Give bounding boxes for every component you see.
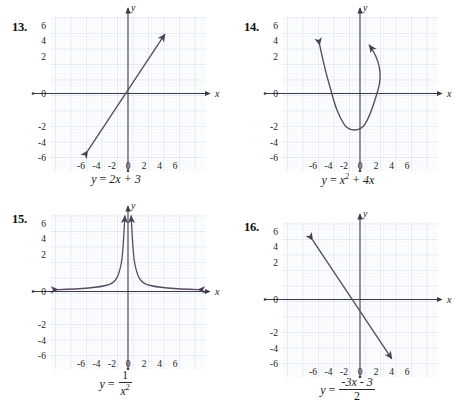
fraction-denominator: 2 — [339, 389, 374, 404]
y-tick-label: 4 — [273, 242, 278, 252]
y-tick-label: 2 — [273, 258, 278, 268]
y-tick-label: 2 — [41, 250, 46, 260]
x-tick-label: -2 — [340, 161, 348, 171]
fraction-neg3x-minus3-over-2: -3x - 32 — [339, 376, 374, 404]
equation-rhs: 2x + 3 — [109, 172, 140, 186]
denominator-exponent: 2 — [126, 383, 130, 392]
problem-16: 16. — [232, 206, 464, 413]
equation-operator: = — [327, 173, 340, 187]
x-tick-label: 6 — [173, 359, 178, 369]
y-tick-label: 4 — [273, 36, 278, 46]
x-tick-label: -6 — [77, 161, 85, 171]
x-tick-label: -6 — [77, 359, 85, 369]
y-tick-label: 6 — [41, 21, 46, 31]
x-tick-label: 6 — [405, 161, 410, 171]
y-tick-label: -6 — [38, 351, 46, 361]
equation-rhs-tail: + 4x — [349, 173, 374, 187]
y-tick-label: -6 — [270, 153, 278, 163]
x-axis-left-dot — [32, 92, 35, 95]
y-tick-label: -6 — [38, 153, 46, 163]
x-tick-label: 2 — [142, 359, 147, 369]
x-tick-label: 0 — [358, 161, 363, 171]
problem-15: 15. — [0, 206, 232, 413]
y-tick-label: -2 — [270, 328, 278, 338]
y-tick-label: -2 — [38, 122, 46, 132]
x-tick-label: 4 — [157, 161, 162, 171]
equation-14: y = x2 + 4x — [232, 172, 464, 188]
x-axis-label: x — [446, 294, 452, 305]
x-tick-label: -4 — [93, 359, 101, 369]
y-tick-label: 4 — [41, 36, 46, 46]
y-tick-label: 4 — [41, 234, 46, 244]
graph-15-svg: 6 4 2 0 -2 -4 -6 -6 -4 -2 0 2 4 6 x y — [24, 200, 224, 370]
y-tick-label: 6 — [273, 227, 278, 237]
x-tick-label: -2 — [108, 161, 116, 171]
x-axis-left-dot — [264, 92, 267, 95]
x-tick-label: 0 — [126, 161, 131, 171]
problem-13: 13. — [0, 0, 232, 207]
graph-15: 6 4 2 0 -2 -4 -6 -6 -4 -2 0 2 4 6 x y — [24, 200, 224, 374]
y-tick-label: 0 — [41, 89, 46, 99]
graph-16: 6 4 2 0 -2 -4 -6 -6 -4 -2 0 2 4 6 x y — [256, 208, 456, 382]
x-tick-label: 0 — [126, 359, 131, 369]
y-tick-label: -4 — [38, 138, 46, 148]
fraction-denominator: x2 — [119, 382, 132, 398]
y-tick-label: 0 — [273, 295, 278, 305]
equation-13: y = 2x + 3 — [0, 172, 232, 187]
x-tick-label: 2 — [142, 161, 147, 171]
x-axis-label: x — [446, 88, 452, 99]
x-tick-label: -2 — [108, 359, 116, 369]
y-axis-label: y — [362, 208, 368, 219]
x-tick-label: -4 — [93, 161, 101, 171]
y-tick-label: 6 — [41, 219, 46, 229]
graph-13-svg: 6 4 2 0 -2 -4 -6 -6 -4 -2 0 2 4 6 x y — [24, 2, 224, 172]
x-axis-label: x — [214, 286, 220, 297]
y-tick-label: 6 — [273, 21, 278, 31]
y-tick-label: -2 — [270, 122, 278, 132]
y-axis-label: y — [362, 2, 368, 13]
equation-16: y = -3x - 32 — [232, 376, 464, 404]
fraction-1-over-x-squared: 1x2 — [119, 369, 132, 398]
x-tick-label: 4 — [157, 359, 162, 369]
x-tick-label: 2 — [374, 161, 379, 171]
equation-operator: = — [105, 377, 118, 391]
x-tick-label: 6 — [173, 161, 178, 171]
graph-14-svg: 6 4 2 0 -2 -4 -6 -6 -4 -2 0 2 4 6 x y — [256, 2, 456, 172]
y-tick-label: -4 — [270, 344, 278, 354]
y-tick-label: 2 — [41, 52, 46, 62]
x-tick-label: -4 — [325, 161, 333, 171]
y-tick-label: 2 — [273, 52, 278, 62]
y-axis-label: y — [130, 2, 136, 13]
x-axis-left-dot — [32, 290, 35, 293]
equation-operator: = — [326, 383, 339, 397]
graph-13: 6 4 2 0 -2 -4 -6 -6 -4 -2 0 2 4 6 x y — [24, 2, 224, 176]
fraction-numerator: -3x - 3 — [339, 376, 374, 389]
graph-14: 6 4 2 0 -2 -4 -6 -6 -4 -2 0 2 4 6 x y — [256, 2, 456, 176]
fraction-numerator: 1 — [119, 369, 132, 382]
x-tick-label: 4 — [389, 161, 394, 171]
y-tick-label: -6 — [270, 359, 278, 369]
y-tick-label: -4 — [38, 336, 46, 346]
x-axis-left-dot — [264, 298, 267, 301]
graph-16-svg: 6 4 2 0 -2 -4 -6 -6 -4 -2 0 2 4 6 x y — [256, 208, 456, 378]
problem-14: 14. — [232, 0, 464, 207]
equation-operator: = — [97, 172, 110, 186]
x-axis-label: x — [214, 88, 220, 99]
y-axis-label: y — [130, 200, 136, 211]
x-tick-label: -6 — [309, 161, 317, 171]
y-tick-label: 0 — [41, 287, 46, 297]
y-tick-label: 0 — [273, 89, 278, 99]
y-tick-label: -4 — [270, 138, 278, 148]
equation-15: y = 1x2 — [0, 369, 232, 398]
y-tick-label: -2 — [38, 320, 46, 330]
worksheet-page: 13. — [0, 0, 464, 413]
